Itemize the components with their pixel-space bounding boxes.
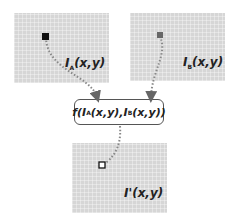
pixel-marker-a bbox=[42, 33, 49, 40]
arrow-a-to-function bbox=[46, 37, 97, 97]
pixel-marker-b bbox=[157, 32, 163, 38]
arrows-overlay bbox=[0, 0, 236, 221]
diagram-canvas: IA(x,y) IB(x,y) I'(x,y) f(IA(x,y),IB(x,y… bbox=[0, 0, 236, 221]
output-pixel-marker bbox=[99, 162, 105, 168]
arrow-b-to-function bbox=[151, 36, 162, 97]
arrow-function-to-output bbox=[104, 126, 120, 164]
